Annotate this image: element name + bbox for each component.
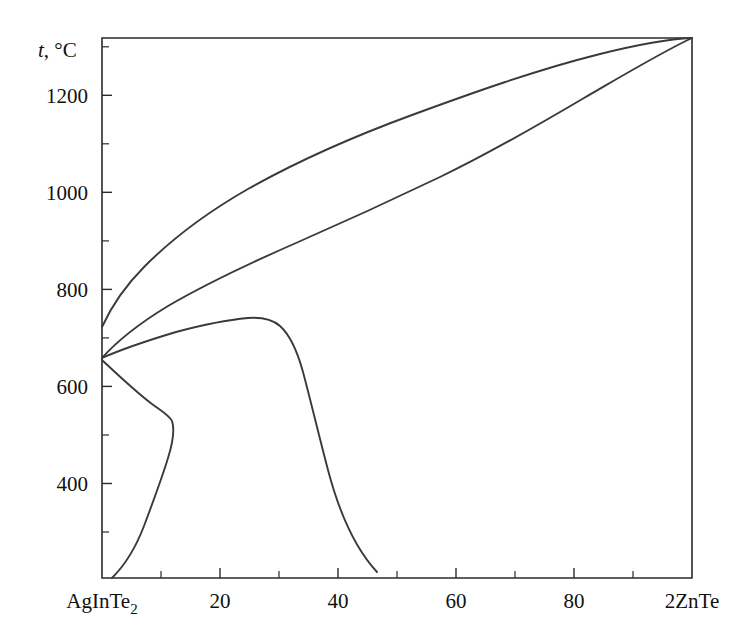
y-tick-label-400: 400 (57, 472, 89, 496)
x-axis-right-endmember-label: 2ZnTe (665, 589, 720, 613)
curve-solvus-lower (102, 360, 173, 578)
x-axis-left-endmember-formula: AgInTe (66, 589, 130, 613)
y-axis-label-unit: , °C (44, 38, 77, 62)
curve-liquidus (102, 38, 692, 327)
x-tick-label-40: 40 (328, 589, 349, 613)
phase-diagram-figure: t, °C 1200 1000 800 600 400 20 40 60 80 … (0, 0, 746, 644)
phase-diagram-plot: t, °C 1200 1000 800 600 400 20 40 60 80 … (0, 0, 746, 644)
y-tick-label-1200: 1200 (46, 84, 88, 108)
x-axis-left-endmember-subscript: 2 (130, 601, 138, 617)
y-tick-label-800: 800 (57, 278, 89, 302)
x-axis-minor-ticks (161, 571, 633, 578)
y-tick-label-1000: 1000 (46, 181, 88, 205)
y-axis-major-ticks (102, 95, 112, 483)
x-axis-left-endmember-label: AgInTe2 (66, 589, 137, 617)
axis-frame (102, 38, 692, 578)
y-tick-label-600: 600 (57, 375, 89, 399)
x-tick-label-20: 20 (210, 589, 231, 613)
x-tick-label-60: 60 (446, 589, 467, 613)
y-axis-label: t, °C (38, 38, 77, 62)
x-tick-label-80: 80 (564, 589, 585, 613)
curve-solvus-dome (102, 318, 377, 572)
curve-solidus (102, 38, 692, 358)
